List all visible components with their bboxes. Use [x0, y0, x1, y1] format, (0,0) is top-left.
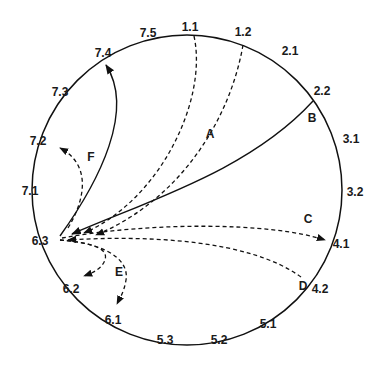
- position-label-5-1: 5.1: [260, 317, 277, 331]
- position-label-3-1: 3.1: [343, 132, 360, 146]
- curve-label-d: D: [299, 279, 308, 293]
- position-label-7-3: 7.3: [52, 85, 69, 99]
- position-label-1-1: 1.1: [182, 20, 199, 34]
- position-label-6-1: 6.1: [105, 313, 122, 327]
- position-label-7-1: 7.1: [22, 184, 39, 198]
- circular-transition-diagram: 1.11.22.12.23.13.24.14.25.15.25.36.16.26…: [0, 0, 382, 365]
- transition-f: [60, 148, 82, 228]
- position-label-4-2: 4.2: [312, 282, 329, 296]
- curve-label-c: C: [304, 212, 313, 226]
- curve-label-f: F: [87, 150, 94, 164]
- position-label-7-4: 7.4: [95, 46, 112, 60]
- transition-b: [72, 101, 313, 234]
- main-circle: [32, 35, 342, 345]
- position-label-2-2: 2.2: [314, 84, 331, 98]
- curve-label-a: A: [206, 127, 215, 141]
- position-label-6-2: 6.2: [63, 282, 80, 296]
- position-label-5-2: 5.2: [211, 333, 228, 347]
- position-label-1-2: 1.2: [235, 25, 252, 39]
- curve-label-b: B: [308, 111, 317, 125]
- position-label-3-2: 3.2: [347, 185, 364, 199]
- position-label-4-1: 4.1: [333, 237, 350, 251]
- transition-a-1-1: [84, 36, 196, 233]
- transition-e-6-2: [60, 240, 106, 276]
- position-label-7-5: 7.5: [140, 26, 157, 40]
- position-label-2-1: 2.1: [282, 44, 299, 58]
- position-label-5-3: 5.3: [157, 333, 174, 347]
- transition-c: [62, 226, 325, 240]
- curve-label-e: E: [115, 265, 123, 279]
- position-label-6-3: 6.3: [32, 234, 49, 248]
- position-label-7-2: 7.2: [30, 134, 47, 148]
- transition-a-1-2: [96, 45, 243, 235]
- transition-d: [68, 238, 301, 277]
